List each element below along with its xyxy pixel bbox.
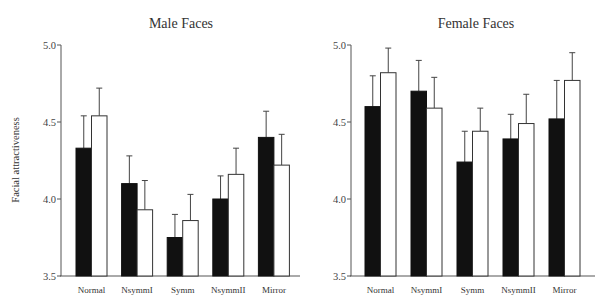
x-category-label: Mirror: [262, 285, 286, 295]
male-faces-panel: Male Faces3.54.04.55.0Facial attractiven…: [10, 16, 300, 295]
x-category-label: Symm: [461, 285, 485, 295]
bar-white: [92, 116, 108, 276]
bar-white: [228, 174, 244, 276]
bar-white: [427, 108, 443, 276]
x-category-label: Symm: [171, 285, 195, 295]
bar-white: [137, 210, 153, 276]
bar-white: [519, 124, 535, 276]
bar-black: [258, 137, 274, 276]
y-tick-label: 5.0: [43, 40, 56, 51]
x-category-label: Normal: [78, 285, 106, 295]
bar-black: [549, 119, 565, 276]
bar-white: [473, 131, 489, 276]
x-category-label: NsymmI: [121, 285, 153, 295]
chart-title: Male Faces: [149, 16, 213, 31]
bar-black: [411, 91, 427, 276]
chart-title: Female Faces: [438, 16, 515, 31]
y-tick-label: 4.5: [333, 117, 346, 128]
bar-black: [76, 148, 92, 276]
y-tick-label: 3.5: [333, 271, 346, 282]
bar-black: [365, 107, 381, 276]
bar-white: [274, 165, 290, 276]
bar-black: [122, 184, 138, 276]
x-category-label: NsymmII: [501, 285, 536, 295]
y-tick-label: 3.5: [43, 271, 56, 282]
x-category-label: Mirror: [553, 285, 577, 295]
bar-black: [457, 162, 473, 276]
x-category-label: NsymmI: [411, 285, 443, 295]
bar-black: [213, 199, 229, 276]
bar-black: [503, 139, 519, 276]
y-tick-label: 4.0: [333, 194, 346, 205]
y-axis-label: Facial attractiveness: [10, 117, 21, 202]
female-faces-panel: Female Faces3.54.04.55.0NormalNsymmISymm…: [333, 16, 595, 295]
bar-white: [565, 80, 581, 276]
y-tick-label: 4.0: [43, 194, 56, 205]
x-category-label: Normal: [367, 285, 395, 295]
y-tick-label: 5.0: [333, 40, 346, 51]
bar-black: [167, 238, 183, 277]
chart-canvas: Male Faces3.54.04.55.0Facial attractiven…: [0, 0, 602, 304]
x-category-label: NsymmII: [211, 285, 246, 295]
bar-white: [183, 221, 199, 276]
y-tick-label: 4.5: [43, 117, 56, 128]
bar-white: [381, 73, 397, 276]
